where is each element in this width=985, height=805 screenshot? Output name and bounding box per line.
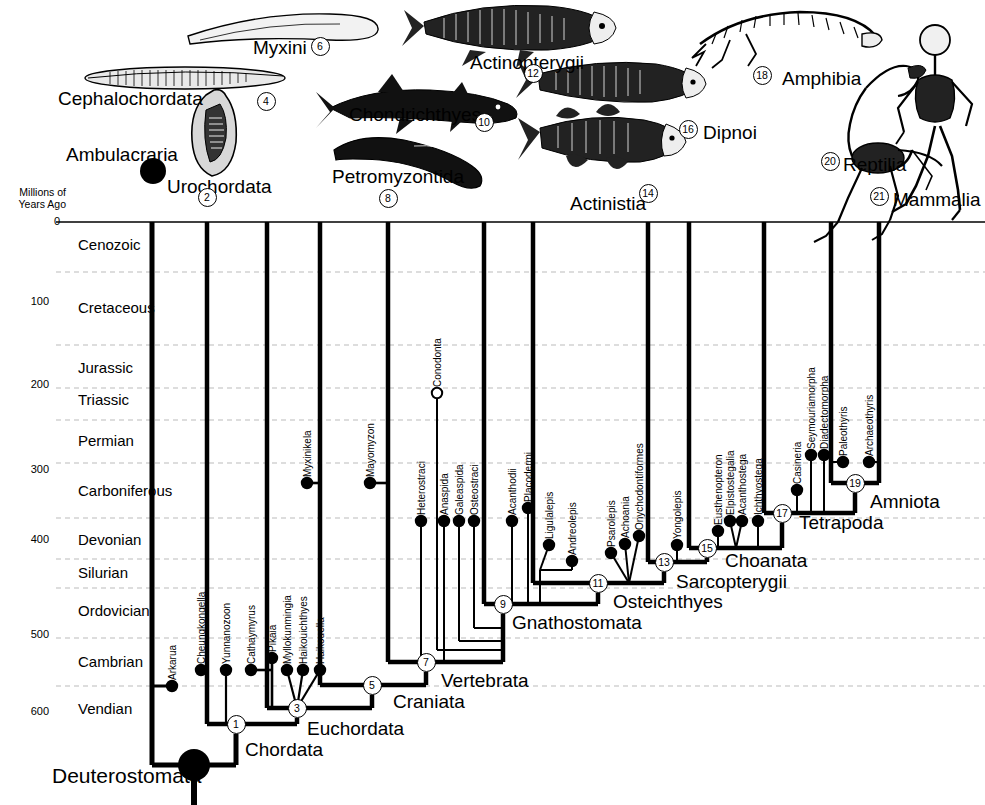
fossil-taxon-seymouriamorpha: Seymouriamorpha — [807, 367, 817, 449]
period-label-triassic: Triassic — [78, 392, 129, 407]
clade-label-amniota: Amniota — [870, 492, 940, 511]
node-marker-9[interactable]: 9 — [494, 595, 513, 614]
fossil-taxon-onychodontiformes: Onychodontiformes — [635, 443, 645, 530]
fossil-taxon-galeaspida: Galeaspida — [455, 464, 465, 515]
axis-tick-100: 100 — [3, 296, 49, 307]
clade-label-sarcopterygii: Sarcopterygii — [676, 572, 787, 591]
fossil-taxon-eusthenopteron: Eusthenopteron — [714, 454, 724, 525]
axis-tick-400: 400 — [3, 534, 49, 545]
fossil-taxon-mayomyzon: Mayomyzon — [366, 423, 376, 477]
clade-label-amphibia: Amphibia — [782, 69, 861, 88]
fossil-taxon-diadectomorpha: Diadectomorpha — [820, 376, 830, 449]
period-label-cretaceous: Cretaceous — [78, 300, 155, 315]
axis-tick-500: 500 — [3, 629, 49, 640]
fossil-taxon-andreolepis: Andreolepis — [568, 502, 578, 555]
node-marker-6[interactable]: 6 — [311, 37, 330, 56]
node-marker-3[interactable]: 3 — [288, 699, 307, 718]
fossil-taxon-haikouichthyes: Haikouichthyes — [299, 596, 309, 664]
fossil-taxon-elpistostegalia: Elpistostegalia — [726, 451, 736, 515]
fossil-taxon-heterostraci: Heterostraci — [417, 461, 427, 515]
node-marker-5[interactable]: 5 — [363, 676, 382, 695]
node-marker-4[interactable]: 4 — [257, 92, 276, 111]
fossil-taxon-cathaymyrus: Cathaymyrus — [247, 605, 257, 664]
clade-label-mammalia: Mammalia — [893, 190, 981, 209]
node-marker-11[interactable]: 11 — [589, 574, 608, 593]
node-marker-17[interactable]: 17 — [773, 504, 792, 523]
fossil-taxon-osteostraci: Osteostraci — [470, 464, 480, 515]
clade-label-chordata: Chordata — [245, 740, 323, 759]
clade-label-dipnoi: Dipnoi — [703, 123, 757, 142]
clade-label-chondrichthyes: Chondrichthyes — [349, 105, 481, 124]
clade-label-choanata: Choanata — [725, 551, 807, 570]
node-marker-21[interactable]: 21 — [870, 187, 889, 206]
node-marker-20[interactable]: 20 — [821, 152, 840, 171]
clade-label-reptilia: Reptilia — [843, 155, 906, 174]
clade-label-gnathostomata: Gnathostomata — [512, 613, 642, 632]
fossil-taxon-placodermi: Placodermi — [524, 452, 534, 502]
period-label-cambrian: Cambrian — [78, 654, 143, 669]
period-label-vendian: Vendian — [78, 701, 132, 716]
period-label-silurian: Silurian — [78, 565, 128, 580]
axis-tick-600: 600 — [3, 706, 49, 717]
fossil-taxon-myllokunmingia: Myllokunmingia — [283, 595, 293, 664]
period-label-devonian: Devonian — [78, 532, 141, 547]
axis-tick-300: 300 — [3, 464, 49, 475]
clade-label-actinistia: Actinistia — [570, 194, 646, 213]
fossil-taxon-haikouella: Haikouella — [316, 617, 326, 664]
clade-label-myxini: Myxini — [253, 38, 307, 57]
axis-caption-line2: Years Ago — [8, 199, 66, 210]
phylogenetic-tree-diagram: Millions ofYears Ago0100200300400500600C… — [0, 0, 985, 805]
fossil-taxon-archaeothyris: Archaeothyris — [865, 395, 875, 456]
fossil-taxon-cheungkongella: Cheungkongella — [197, 592, 207, 664]
clade-label-urochordata: Urochordata — [167, 177, 272, 196]
fossil-taxon-yunnanozoon: Yunnanozoon — [222, 603, 232, 664]
fossil-taxon-anaspida: Anaspida — [440, 473, 450, 515]
clade-label-deuterostomata: Deuterostomata — [52, 765, 201, 786]
fossil-taxon-yongolepis: Yongolepis — [673, 490, 683, 539]
node-marker-1[interactable]: 1 — [227, 715, 246, 734]
fossil-taxon-acanthostega: Acanthostega — [738, 454, 748, 515]
node-marker-13[interactable]: 13 — [655, 553, 674, 572]
fossil-taxon-paleothyris: Paleothyris — [839, 407, 849, 456]
period-label-carboniferous: Carboniferous — [78, 483, 172, 498]
clade-label-vertebrata: Vertebrata — [441, 671, 529, 690]
axis-tick-200: 200 — [3, 379, 49, 390]
axis-tick-0: 0 — [14, 216, 60, 227]
period-label-ordovician: Ordovician — [78, 603, 150, 618]
clade-label-craniata: Craniata — [393, 692, 465, 711]
fossil-taxon-casineria: Casineria — [793, 442, 803, 484]
clade-label-osteichthyes: Osteichthyes — [613, 592, 723, 611]
fossil-taxon-arkarua: Arkarua — [168, 645, 178, 680]
clade-label-euchordata: Euchordata — [307, 719, 404, 738]
fossil-taxon-myxinikela: Myxinikela — [303, 430, 313, 477]
node-marker-18[interactable]: 18 — [753, 66, 772, 85]
fossil-taxon-acanthodii: Acanthodii — [508, 468, 518, 515]
node-marker-19[interactable]: 19 — [846, 474, 865, 493]
node-marker-7[interactable]: 7 — [417, 653, 436, 672]
period-label-cenozoic: Cenozoic — [78, 237, 141, 252]
clade-label-petromyzontida: Petromyzontida — [332, 167, 464, 186]
fossil-taxon-ligulalepis: Ligulalepis — [545, 492, 555, 539]
node-marker-16[interactable]: 16 — [679, 120, 698, 139]
clade-label-ambulacraria: Ambulacraria — [66, 145, 178, 164]
fossil-taxon-conodonta: Conodonta — [433, 338, 443, 387]
clade-label-tetrapoda: Tetrapoda — [799, 513, 884, 532]
axis-caption-line1: Millions of — [8, 187, 66, 198]
node-marker-2[interactable]: 2 — [198, 188, 217, 207]
fossil-taxon-ichthyostega: Ichthyostega — [754, 458, 764, 515]
node-marker-14[interactable]: 14 — [639, 184, 658, 203]
node-marker-8[interactable]: 8 — [379, 189, 398, 208]
node-marker-12[interactable]: 12 — [524, 64, 543, 83]
fossil-taxon-psarolepis: Psarolepis — [607, 500, 617, 547]
clade-label-cephalochordata: Cephalochordata — [58, 89, 203, 108]
node-marker-15[interactable]: 15 — [698, 539, 717, 558]
node-marker-10[interactable]: 10 — [475, 113, 494, 132]
fossil-taxon-pikaia: Pikaia — [268, 625, 278, 652]
period-label-jurassic: Jurassic — [78, 360, 133, 375]
period-label-permian: Permian — [78, 433, 134, 448]
fossil-taxon-achoania: Achoania — [621, 496, 631, 538]
